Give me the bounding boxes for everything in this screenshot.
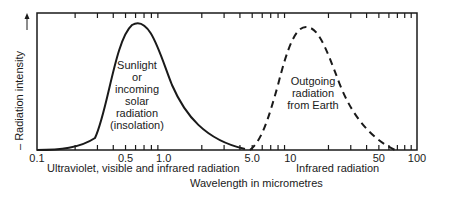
curve-label-line: Outgoing: [291, 75, 336, 87]
y-axis-label: – Radiation intensity: [13, 50, 25, 150]
x-tick-label: 0.1: [29, 152, 44, 164]
curve-label-line: radiation: [292, 87, 334, 99]
x-tick-label: 10: [284, 152, 296, 164]
solar-curve-label: Sunlightorincomingsolarradiation(insolat…: [110, 59, 164, 131]
curve-label-line: incoming: [115, 83, 159, 95]
region-label-earth: Infrared radiation: [296, 162, 379, 174]
curve-label-line: from Earth: [287, 99, 338, 111]
curve-label-line: (insolation): [110, 119, 164, 131]
curve-label-line: Sunlight: [117, 59, 157, 71]
x-tick-label: 5.0: [245, 152, 260, 164]
earth-curve-label: Outgoingradiationfrom Earth: [287, 75, 338, 111]
curve-label-line: or: [132, 71, 142, 83]
x-axis-label: Wavelength in micrometres: [190, 177, 323, 189]
curve-label-line: radiation: [116, 107, 158, 119]
plot-frame: [37, 13, 417, 150]
curve-label-line: solar: [125, 95, 149, 107]
y-axis-arrow-icon: [25, 13, 30, 19]
region-label-solar: Ultraviolet, visible and infrared radiat…: [47, 162, 240, 174]
x-tick-label: 100: [408, 152, 426, 164]
radiation-spectrum-diagram: – Radiation intensity 0.10.51.05.0105010…: [0, 0, 450, 200]
